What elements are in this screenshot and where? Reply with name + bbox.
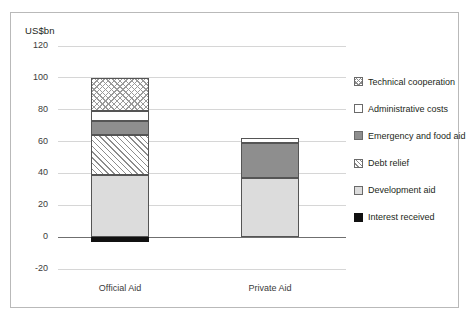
legend-label: Development aid <box>368 185 436 195</box>
development-swatch-icon <box>354 186 363 195</box>
x-axis-tick-private-aid: Private Aid <box>216 283 324 293</box>
legend-label: Administrative costs <box>368 104 448 114</box>
legend-item-technical-cooperation[interactable]: Technical cooperation <box>354 75 470 88</box>
y-axis-tick-60: 60 <box>16 136 48 146</box>
bar-segment-development-aid <box>91 175 149 237</box>
legend-label: Technical cooperation <box>368 77 455 87</box>
emergency-swatch-icon <box>354 131 363 140</box>
chart-legend: Technical cooperationAdministrative cost… <box>354 75 470 238</box>
legend-label: Debt relief <box>368 158 409 168</box>
bar-segment-interest-received <box>91 237 149 242</box>
legend-label: Interest received <box>368 212 435 222</box>
x-axis-tick-official-aid: Official Aid <box>66 283 174 293</box>
y-axis-tick-80: 80 <box>16 104 48 114</box>
y-axis-tick-100: 100 <box>16 72 48 82</box>
bar-segment-emergency-and-food-aid <box>241 143 299 178</box>
gridline--20 <box>58 269 346 270</box>
bar-segment-emergency-and-food-aid <box>91 121 149 135</box>
legend-item-emergency-and-food-aid[interactable]: Emergency and food aid <box>354 129 470 142</box>
chart-figure: US$bn 120100806040200-20Official AidPriv… <box>10 12 459 308</box>
bar-segment-technical-cooperation <box>91 78 149 111</box>
bar-segment-development-aid <box>241 178 299 237</box>
legend-item-interest-received[interactable]: Interest received <box>354 211 470 224</box>
legend-item-debt-relief[interactable]: Debt relief <box>354 157 470 170</box>
y-axis-tick-120: 120 <box>16 40 48 50</box>
y-axis-tick-40: 40 <box>16 167 48 177</box>
y-axis-tick-0: 0 <box>16 231 48 241</box>
gridline-120 <box>58 46 346 47</box>
bar-segment-administrative-costs <box>241 138 299 143</box>
bar-segment-debt-relief <box>91 135 149 175</box>
admin-swatch-icon <box>354 104 363 113</box>
legend-item-administrative-costs[interactable]: Administrative costs <box>354 102 470 115</box>
debt-swatch-icon <box>354 159 363 168</box>
interest-swatch-icon <box>354 213 363 222</box>
legend-label: Emergency and food aid <box>368 131 466 141</box>
y-axis-tick-20: 20 <box>16 199 48 209</box>
y-axis-tick--20: -20 <box>16 263 48 273</box>
legend-item-development-aid[interactable]: Development aid <box>354 184 470 197</box>
tech-swatch-icon <box>354 77 363 86</box>
bar-segment-administrative-costs <box>91 111 149 121</box>
